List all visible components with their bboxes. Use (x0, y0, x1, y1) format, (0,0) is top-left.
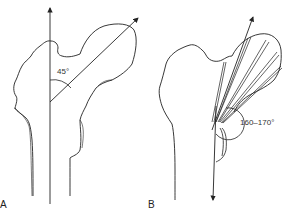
femur-diagram (0, 0, 288, 212)
panel-a-label: A (0, 199, 7, 210)
panel-a-neck-axis (50, 18, 138, 102)
panel-b-trabecular-lines (212, 37, 282, 123)
panel-a-femur (14, 24, 136, 196)
panel-a-angle-arc (50, 80, 71, 88)
panel-a-angle-label: 45° (57, 67, 69, 76)
panel-b-label: B (148, 199, 155, 210)
panel-b-angle-label: 160–170° (240, 118, 274, 127)
panel-b-femur (159, 34, 281, 200)
panel-b-lesser-trochanter (216, 128, 226, 162)
